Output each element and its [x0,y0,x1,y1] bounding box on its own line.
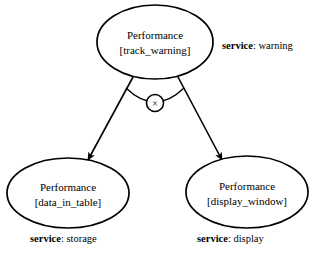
service-label-storage-key: service [30,233,61,244]
node-track-warning-ellipse[interactable] [97,5,213,79]
node-data-in-table-ellipse[interactable] [7,158,129,228]
page-caption-fragment [0,249,315,256]
service-label-warning-value: warning [258,40,292,51]
service-label-display-value: display [233,233,263,244]
xor-constraint-symbol: × [152,99,157,109]
service-label-display-key: service [197,233,228,244]
service-label-warning-key: service [222,40,253,51]
service-label-storage-value: storage [66,233,96,244]
edge-to-display [178,77,222,160]
node-data-in-table-instance: [data_in_table] [35,196,102,208]
node-display-window-title: Performance [219,180,275,192]
node-track-warning-title: Performance [127,29,183,41]
node-data-in-table-title: Performance [40,181,96,193]
service-label-display: service: display [197,234,264,245]
node-display-window-instance: [display_window] [207,195,287,207]
diagram-graphics: Performance [track_warning] Performance … [0,0,315,256]
service-label-storage: service: storage [30,234,97,245]
diagram-canvas: Performance [track_warning] Performance … [0,0,315,256]
node-display-window-ellipse[interactable] [186,156,308,228]
service-label-warning: service: warning [222,41,293,52]
edge-to-storage [88,77,133,160]
node-track-warning-instance: [track_warning] [120,44,191,56]
